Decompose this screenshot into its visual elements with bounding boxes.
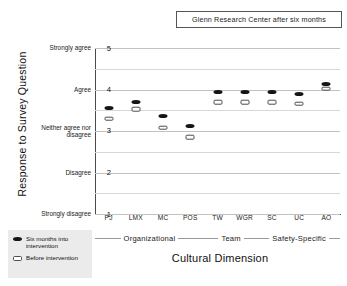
- hollow-rect-marker-icon: [12, 256, 23, 261]
- y-axis-tick-5: Strongly agree5: [29, 44, 95, 51]
- data-point-mc-after: [159, 114, 168, 118]
- group-label: Organizational: [121, 234, 179, 243]
- gridline: [95, 152, 340, 153]
- gridline: [95, 193, 340, 194]
- legend-item-before: Before intervention: [12, 254, 88, 261]
- bracket-line: [95, 238, 121, 239]
- legend-label-before: Before intervention: [26, 254, 78, 261]
- chart-title: Glenn Research Center after six months: [192, 15, 326, 24]
- data-point-pj-after: [104, 106, 113, 110]
- data-point-sc-after: [267, 89, 276, 93]
- y-tick-words: Strongly agree: [29, 44, 91, 51]
- bracket-line: [244, 238, 259, 239]
- y-axis-tick-3: Neither agree nor disagree3: [29, 124, 95, 139]
- chart-title-box: Glenn Research Center after six months: [176, 11, 342, 28]
- data-point-pj-before: [104, 116, 113, 121]
- y-tick-number: 2: [107, 169, 111, 176]
- gridline: [95, 48, 340, 49]
- legend-item-after: Six months into intervention: [12, 235, 88, 249]
- data-point-lmx-after: [131, 100, 140, 104]
- y-tick-words: Strongly disagree: [29, 210, 91, 217]
- y-axis-tick-2: Disagree2: [29, 169, 95, 176]
- data-point-tw-before: [213, 100, 222, 105]
- data-point-lmx-before: [131, 107, 140, 112]
- data-point-uc-after: [295, 92, 304, 96]
- data-point-uc-before: [295, 101, 304, 106]
- bracket-line: [204, 238, 219, 239]
- group-label: Safety-Specific: [269, 234, 329, 243]
- data-point-wgr-after: [240, 89, 249, 93]
- group-bracket-organizational: Organizational: [95, 232, 204, 244]
- y-tick-number: 5: [107, 44, 111, 51]
- y-tick-number: 4: [107, 86, 111, 93]
- data-point-ao-before: [322, 86, 331, 91]
- plot-area: Strongly agree5Agree4Neither agree nor d…: [95, 48, 340, 214]
- gridline: [95, 173, 340, 174]
- y-axis-title: Response to Survey Question: [16, 39, 28, 209]
- y-tick-words: Neither agree nor disagree: [29, 124, 91, 139]
- data-point-pos-after: [186, 124, 195, 128]
- y-tick-words: Agree: [29, 86, 91, 93]
- data-point-tw-after: [213, 89, 222, 93]
- data-point-wgr-before: [240, 100, 249, 105]
- x-axis-title: Cultural Dimension: [100, 252, 340, 264]
- group-bracket-team: Team: [204, 232, 258, 244]
- bracket-line: [329, 238, 340, 239]
- data-point-sc-before: [267, 100, 276, 105]
- y-axis-tick-1: Strongly disagree1: [29, 210, 95, 217]
- gridline: [95, 69, 340, 70]
- x-axis-tick-ao: AO: [306, 214, 346, 221]
- bracket-line: [178, 238, 204, 239]
- legend-label-after: Six months into intervention: [26, 235, 88, 249]
- y-tick-words: Disagree: [29, 169, 91, 176]
- gridline: [95, 131, 340, 132]
- bracket-line: [258, 238, 269, 239]
- y-tick-number: 3: [107, 127, 111, 134]
- chart-legend: Six months into intervention Before inte…: [8, 230, 92, 278]
- data-point-mc-before: [159, 125, 168, 130]
- y-axis-tick-4: Agree4: [29, 86, 95, 93]
- group-label: Team: [218, 234, 243, 243]
- group-bracket-safety-specific: Safety-Specific: [258, 232, 340, 244]
- filled-ellipse-marker-icon: [12, 237, 23, 241]
- chart-container: Glenn Research Center after six months R…: [0, 0, 347, 286]
- data-point-pos-before: [186, 135, 195, 140]
